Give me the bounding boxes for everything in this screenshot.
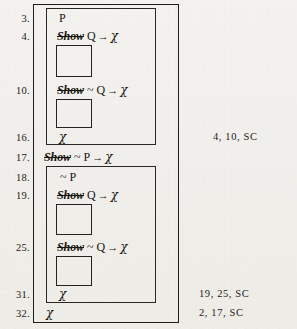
justification-line-16: 4, 10, SC xyxy=(213,131,258,142)
justification-line-32: 2, 17, SC xyxy=(199,307,244,318)
line-number-10: 10. xyxy=(2,85,30,96)
negation-symbol: ~ xyxy=(87,83,95,97)
formula-line-19: ShowQ→χ xyxy=(57,189,118,202)
line-number-25: 25. xyxy=(2,242,30,253)
conditional-arrow-icon: → xyxy=(105,84,120,96)
proposition-P: P xyxy=(59,11,66,25)
formula-line-18: ~P xyxy=(60,171,76,184)
negation-symbol: ~ xyxy=(74,150,82,164)
proof-figure: 3. 4. 10. 16. 17. 18. 19. 25. 31. 32. P … xyxy=(0,0,297,329)
negation-symbol: ~ xyxy=(87,240,95,254)
negation-symbol: ~ xyxy=(60,170,68,184)
line-number-4: 4. xyxy=(2,31,30,42)
proposition-Q: Q xyxy=(96,83,105,97)
conditional-arrow-icon: → xyxy=(96,189,111,201)
line-number-17: 17. xyxy=(2,152,30,163)
formula-line-17: Show~P→χ xyxy=(44,151,112,164)
show-keyword: Show xyxy=(44,150,71,164)
chi-symbol: χ xyxy=(120,83,127,97)
blank-subproof-box-3 xyxy=(56,204,92,235)
blank-subproof-box-4 xyxy=(56,256,92,286)
chi-symbol: χ xyxy=(120,240,127,254)
proposition-Q: Q xyxy=(96,240,105,254)
proposition-P: P xyxy=(70,170,77,184)
chi-symbol: χ xyxy=(46,306,53,320)
proposition-Q: Q xyxy=(87,29,96,43)
formula-line-4: ShowQ→χ xyxy=(57,30,118,43)
formula-line-31: χ xyxy=(59,288,66,301)
line-number-16: 16. xyxy=(2,132,30,143)
proposition-Q: Q xyxy=(87,188,96,202)
blank-subproof-box-1 xyxy=(56,45,92,77)
show-keyword: Show xyxy=(57,240,84,254)
line-number-19: 19. xyxy=(2,190,30,201)
conditional-arrow-icon: → xyxy=(105,241,120,253)
formula-line-25: Show~Q→χ xyxy=(57,241,127,254)
conditional-arrow-icon: → xyxy=(90,151,105,163)
show-keyword: Show xyxy=(57,29,84,43)
chi-symbol: χ xyxy=(105,150,112,164)
chi-symbol: χ xyxy=(59,287,66,301)
line-number-32: 32. xyxy=(2,308,30,319)
line-number-18: 18. xyxy=(2,172,30,183)
chi-symbol: χ xyxy=(111,29,118,43)
blank-subproof-box-2 xyxy=(56,99,92,128)
conditional-arrow-icon: → xyxy=(96,30,111,42)
line-number-gutter: 3. 4. 10. 16. 17. 18. 19. 25. 31. 32. xyxy=(0,0,30,329)
chi-symbol: χ xyxy=(111,188,118,202)
formula-line-16: χ xyxy=(59,131,66,144)
show-keyword: Show xyxy=(57,83,84,97)
formula-line-3: P xyxy=(59,12,66,25)
formula-line-32: χ xyxy=(46,307,53,320)
justification-line-31: 19, 25, SC xyxy=(199,288,249,299)
formula-line-10: Show~Q→χ xyxy=(57,84,127,97)
line-number-31: 31. xyxy=(2,289,30,300)
chi-symbol: χ xyxy=(59,130,66,144)
line-number-3: 3. xyxy=(2,13,30,24)
show-keyword: Show xyxy=(57,188,84,202)
